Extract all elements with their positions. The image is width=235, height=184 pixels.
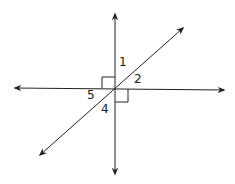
angle-label-1: 1: [119, 56, 127, 68]
angle-label-2: 2: [134, 73, 142, 85]
geometry-diagram: [0, 0, 235, 184]
angle-label-5: 5: [87, 89, 95, 101]
right-angle-mark-upper-left: [102, 77, 115, 88]
right-angle-mark-lower-right: [115, 89, 128, 102]
diagonal-line: [40, 28, 183, 155]
angle-label-4: 4: [101, 103, 109, 115]
horizontal-line: [15, 88, 224, 90]
